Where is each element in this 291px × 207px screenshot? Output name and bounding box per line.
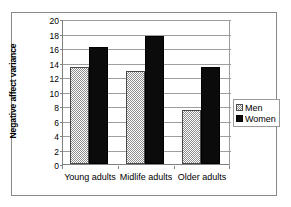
y-tick-mark <box>60 49 63 50</box>
legend-item-men: Men <box>236 102 276 113</box>
solid-black-swatch-icon <box>236 115 243 122</box>
x-tick-mark <box>62 166 63 169</box>
y-tick-label: 16 <box>29 45 59 55</box>
y-tick-label: 12 <box>29 74 59 84</box>
y-tick-label: 14 <box>29 59 59 69</box>
y-tick-mark <box>60 151 63 152</box>
y-tick-label: 6 <box>29 117 59 127</box>
hatched-swatch-icon <box>236 104 243 111</box>
bar-men-older-adults <box>182 110 201 164</box>
legend-label-men: Men <box>245 103 263 113</box>
legend-item-women: Women <box>236 113 276 124</box>
x-axis-label-midlife-adults: Midlife adults <box>118 171 174 183</box>
plot-area: 02468101214161820 <box>62 20 230 165</box>
bar-men-midlife-adults <box>126 71 145 164</box>
y-tick-label: 8 <box>29 103 59 113</box>
y-tick-mark <box>60 93 63 94</box>
bar-men-young-adults <box>70 67 89 164</box>
plot-right-border <box>229 20 230 166</box>
y-tick-mark <box>60 136 63 137</box>
y-tick-mark <box>60 64 63 65</box>
y-tick-label: 2 <box>29 146 59 156</box>
bar-women-older-adults <box>201 67 220 164</box>
y-axis-title: Negative affect variance <box>6 31 20 151</box>
y-tick-mark <box>60 20 63 21</box>
x-axis-label-young-adults: Young adults <box>62 171 118 183</box>
y-tick-mark <box>60 35 63 36</box>
y-tick-label: 4 <box>29 132 59 142</box>
y-tick-mark <box>60 107 63 108</box>
x-axis-labels: Young adultsMidlife adultsOlder adults <box>62 171 232 185</box>
chart-legend: Men Women <box>233 99 280 127</box>
gridline <box>63 35 231 36</box>
y-tick-label: 10 <box>29 88 59 98</box>
bar-women-midlife-adults <box>145 36 164 164</box>
chart-figure: Negative affect variance 024681012141618… <box>11 12 277 196</box>
y-tick-label: 18 <box>29 30 59 40</box>
gridline <box>63 20 231 21</box>
bar-women-young-adults <box>89 47 108 164</box>
legend-label-women: Women <box>245 114 276 124</box>
x-tick-mark <box>174 166 175 169</box>
x-tick-mark <box>229 166 230 169</box>
y-tick-mark <box>60 78 63 79</box>
y-tick-mark <box>60 122 63 123</box>
x-tick-mark <box>118 166 119 169</box>
y-tick-label: 20 <box>29 16 59 26</box>
x-axis-label-older-adults: Older adults <box>174 171 230 183</box>
y-tick-label: 0 <box>29 161 59 171</box>
